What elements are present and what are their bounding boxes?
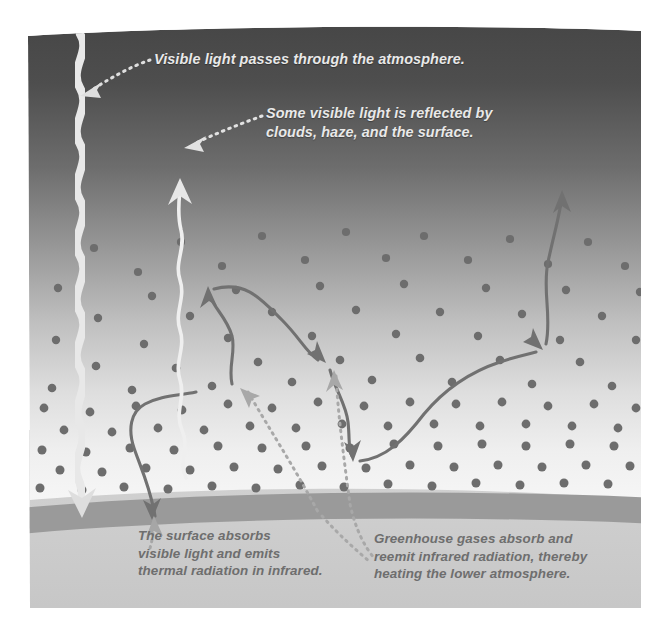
label-visible-light: Visible light passes through the atmosph… bbox=[154, 50, 465, 69]
diagram-canvas: Visible light passes through the atmosph… bbox=[0, 0, 664, 640]
label-greenhouse-gases: Greenhouse gases absorb and reemit infra… bbox=[374, 530, 587, 583]
label-reflected-light: Some visible light is reflected by cloud… bbox=[266, 104, 493, 142]
label-surface-absorbs: The surface absorbs visible light and em… bbox=[138, 527, 323, 580]
